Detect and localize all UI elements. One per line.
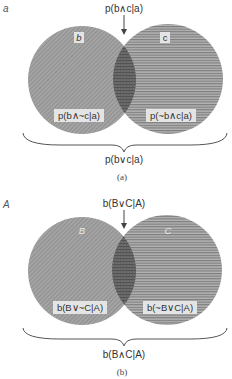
conjunction-label: b(B∧C|A) <box>103 349 145 360</box>
circle-C-label: C <box>165 225 172 236</box>
left-region-label: p(b∧~c|a) <box>58 110 100 121</box>
circle-c-label: c <box>163 32 168 43</box>
arrow-down-icon <box>121 15 127 35</box>
intersection-label: p(b∧c|a) <box>105 3 143 14</box>
arrow-down-icon <box>121 210 127 229</box>
circle-B-label: B <box>79 225 86 236</box>
right-region-label: b(~B∨C|A) <box>147 302 193 313</box>
circle-b-label: b <box>76 32 81 43</box>
caption: (b) <box>117 367 128 377</box>
panel-b: A b(B∨C|A) B C b(B∨~C|A) b(~B∨C|A) b(B∧C… <box>2 198 227 377</box>
brace-icon <box>23 133 227 152</box>
panel-a: a p(b∧c|a) b c p(b∧~c|a) p(~b∧c|a) p(b∨c… <box>3 3 227 182</box>
panel-letter: a <box>3 3 9 14</box>
left-region-label: b(B∨~C|A) <box>57 302 103 313</box>
brace-icon <box>23 328 227 346</box>
intersection-label: b(B∨C|A) <box>103 198 145 209</box>
panel-letter: A <box>2 199 10 210</box>
caption: (a) <box>117 172 127 182</box>
venn-diagram-figure: a p(b∧c|a) b c p(b∧~c|a) p(~b∧c|a) p(b∨c… <box>0 0 232 379</box>
right-region-label: p(~b∧c|a) <box>150 110 192 121</box>
union-label: p(b∨c|a) <box>105 154 143 165</box>
